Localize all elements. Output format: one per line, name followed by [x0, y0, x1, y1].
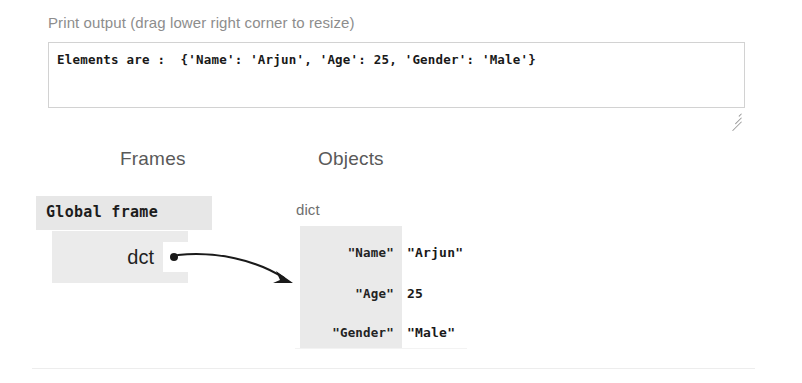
- print-output-label: Print output (drag lower right corner to…: [48, 14, 355, 31]
- dict-entry-key: "Gender": [300, 325, 398, 340]
- frame-variable-name: dct: [127, 247, 163, 267]
- dict-entry-key: "Age": [300, 286, 398, 301]
- dict-entry-row: "Name" "Arjun": [300, 232, 500, 273]
- bottom-divider: [32, 368, 755, 369]
- dict-entry-key: "Name": [300, 245, 398, 260]
- dict-entry-value: "Male": [398, 325, 455, 340]
- dict-entry-value: "Arjun": [398, 245, 463, 260]
- global-frame-title: Global frame: [46, 203, 158, 221]
- global-frame-body: dct: [52, 231, 188, 283]
- global-frame-header: Global frame: [36, 196, 212, 230]
- print-output-textarea[interactable]: Elements are : {'Name': 'Arjun', 'Age': …: [48, 42, 745, 108]
- print-output-value: Elements are : {'Name': 'Arjun', 'Age': …: [57, 52, 536, 67]
- pointer-arrow-icon: [170, 238, 310, 294]
- dict-entry-row: "Gender" "Male": [300, 312, 500, 353]
- resize-grip-icon[interactable]: [731, 112, 745, 126]
- object-type-label: dict: [296, 201, 320, 218]
- dict-entry-value: 25: [398, 286, 423, 301]
- dict-entry-row: "Age" 25: [300, 273, 500, 314]
- objects-column-heading: Objects: [318, 148, 384, 170]
- frame-variable-row: dct: [52, 241, 188, 273]
- dict-entries: "Name" "Arjun" "Age" 25 "Gender" "Male": [300, 226, 500, 349]
- faint-divider: [295, 348, 467, 349]
- frames-column-heading: Frames: [120, 148, 186, 170]
